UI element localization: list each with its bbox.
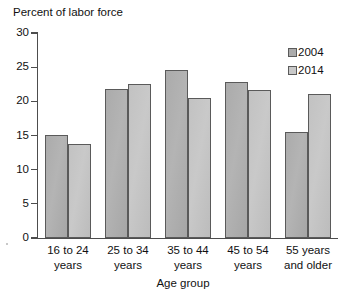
bar-2004-1[interactable] — [105, 89, 128, 238]
y-axis-tick-label: 0 — [3, 232, 29, 244]
x-axis-category-label: 16 to 24 years — [34, 243, 102, 272]
cropped-footer-text — [6, 297, 346, 304]
y-axis-tick-mark — [31, 169, 37, 170]
y-axis-tick-mark — [31, 237, 37, 238]
legend-swatch-icon — [288, 66, 297, 75]
legend-label: 2014 — [298, 65, 324, 77]
y-axis-tick-label: 15 — [3, 130, 29, 142]
y-axis-tick-mark — [31, 101, 37, 102]
chart-title: Percent of labor force — [13, 5, 123, 19]
y-axis-tick-label: 25 — [3, 61, 29, 73]
legend-swatch-icon — [288, 48, 297, 57]
x-axis-category-label: 35 to 44 years — [154, 243, 222, 272]
y-axis-tick-label: 10 — [3, 164, 29, 176]
x-axis-line — [37, 238, 338, 239]
y-axis-tick-labels: 051015202530 — [0, 0, 29, 304]
x-axis-category-label: 45 to 54 years — [214, 243, 282, 272]
bar-2004-2[interactable] — [165, 70, 188, 238]
x-axis-category-label: 55 years and older — [274, 243, 342, 272]
bar-2004-3[interactable] — [225, 82, 248, 238]
y-axis-tick-label: 20 — [3, 95, 29, 107]
y-axis-tick-mark — [31, 135, 37, 136]
x-axis-title: Age group — [0, 276, 346, 290]
bar-2014-2[interactable] — [188, 98, 211, 238]
bar-2004-0[interactable] — [45, 135, 68, 238]
chart-legend: 20042014 — [288, 45, 324, 81]
y-axis-tick-label: 5 — [3, 198, 29, 210]
y-axis-tick-mark — [31, 67, 37, 68]
bar-2014-3[interactable] — [248, 90, 271, 238]
bar-2014-4[interactable] — [308, 94, 331, 238]
legend-item-2004[interactable]: 2004 — [288, 45, 324, 60]
bar-2014-0[interactable] — [68, 144, 91, 238]
x-axis-category-label: 25 to 34 years — [94, 243, 162, 272]
y-axis-tick-mark — [31, 32, 37, 33]
legend-label: 2004 — [298, 47, 324, 59]
legend-item-2014[interactable]: 2014 — [288, 63, 324, 78]
y-axis-tick-label: 30 — [3, 27, 29, 39]
bar-2014-1[interactable] — [128, 84, 151, 238]
bar-2004-4[interactable] — [285, 132, 308, 238]
scan-artifact-speck — [6, 243, 8, 245]
y-axis-tick-mark — [31, 203, 37, 204]
